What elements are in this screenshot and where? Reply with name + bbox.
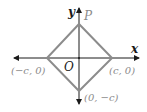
vertex-label-left: (−c, 0) — [11, 65, 46, 76]
vertex-label-top: P — [83, 9, 93, 23]
origin-label: O — [64, 60, 74, 74]
diagram-canvas: y P x O (c, 0) (0, −c) (−c, 0) — [0, 0, 147, 112]
vertex-label-right: (c, 0) — [109, 65, 135, 76]
y-axis-label: y — [67, 5, 76, 19]
x-axis-label: x — [130, 42, 139, 56]
vertex-label-bottom: (0, −c) — [84, 92, 119, 103]
